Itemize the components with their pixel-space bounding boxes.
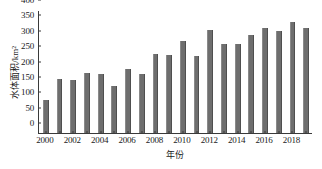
bar	[57, 79, 63, 133]
x-axis-tick-mark	[141, 131, 142, 134]
x-axis-tick-mark	[73, 131, 74, 134]
y-axis: 050100150200250300350400	[0, 0, 38, 123]
bar-chart-figure: 水体面积/km² 050100150200250300350400 年份 200…	[0, 0, 322, 169]
bar	[262, 28, 268, 133]
x-axis-tick-label: 2006	[118, 136, 135, 145]
x-axis-tick-mark	[155, 131, 156, 134]
bar	[207, 30, 213, 133]
x-axis-tick-mark	[86, 131, 87, 134]
bar	[43, 100, 49, 133]
x-axis-tick-mark	[265, 131, 266, 134]
y-axis-tick-mark	[38, 0, 41, 1]
bar	[194, 56, 200, 133]
bar	[303, 28, 309, 133]
bar	[70, 80, 76, 133]
x-axis-tick-mark	[100, 131, 101, 134]
x-axis-tick-mark	[128, 131, 129, 134]
bar	[166, 55, 172, 133]
x-axis-tick-mark	[278, 131, 279, 134]
y-axis-tick-label: 50	[25, 103, 34, 112]
y-axis-tick-label: 150	[21, 72, 34, 81]
y-axis-tick-label: 250	[21, 42, 34, 51]
x-axis-tick-mark	[223, 131, 224, 134]
x-axis-tick-mark	[114, 131, 115, 134]
x-axis-tick-mark	[59, 131, 60, 134]
x-axis-tick-label: 2000	[36, 136, 53, 145]
x-axis-tick-mark	[196, 131, 197, 134]
x-axis-tick-mark	[292, 131, 293, 134]
x-axis-tick-label: 2004	[91, 136, 108, 145]
y-axis-tick-label: 200	[21, 57, 34, 66]
x-axis-tick-mark	[237, 131, 238, 134]
bar	[139, 74, 145, 133]
bar	[125, 69, 131, 133]
bar	[290, 22, 296, 133]
x-axis-tick-mark	[182, 131, 183, 134]
x-axis-tick-mark	[210, 131, 211, 134]
x-axis-tick-label: 2010	[173, 136, 190, 145]
x-axis-tick-label: 2012	[201, 136, 218, 145]
x-axis-tick-label: 2008	[146, 136, 163, 145]
bar	[84, 73, 90, 133]
bar	[98, 74, 104, 133]
bar	[153, 54, 159, 133]
bar	[276, 31, 282, 133]
bar	[221, 44, 227, 133]
x-axis-tick-label: 2014	[228, 136, 245, 145]
y-axis-tick-label: 300	[21, 26, 34, 35]
x-axis-tick-label: 2016	[255, 136, 272, 145]
x-axis-tick-mark	[306, 131, 307, 134]
x-axis-tick-mark	[169, 131, 170, 134]
plot-area	[38, 11, 312, 134]
bar	[248, 35, 254, 133]
x-axis-tick-mark	[45, 131, 46, 134]
x-axis-tick-mark	[251, 131, 252, 134]
bar	[235, 44, 241, 133]
x-axis-tick-label: 2018	[283, 136, 300, 145]
bar	[111, 86, 117, 133]
x-axis-title-label: 年份	[38, 150, 312, 161]
y-axis-tick-label: 400	[21, 0, 34, 5]
y-axis-tick-label: 350	[21, 11, 34, 20]
x-axis-tick-label: 2002	[64, 136, 81, 145]
y-axis-tick-label: 0	[30, 119, 34, 128]
bar	[180, 41, 186, 133]
y-axis-tick-label: 100	[21, 88, 34, 97]
